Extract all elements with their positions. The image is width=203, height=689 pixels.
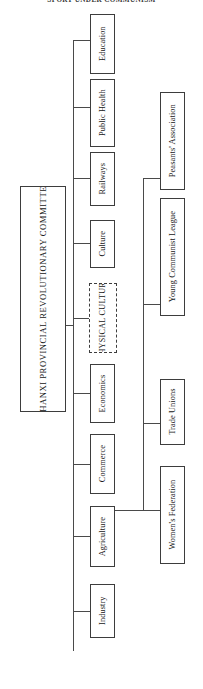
org-chart: SHANXI PROVINCIAL REVOLUTIONARY COMMITTE… bbox=[0, 0, 203, 689]
department-box-agriculture[interactable]: Agriculture bbox=[90, 506, 115, 567]
department-label-agriculture: Agriculture bbox=[98, 517, 107, 556]
department-label-education: Education bbox=[98, 27, 107, 62]
department-box-commerce[interactable]: Commerce bbox=[90, 434, 115, 494]
department-box-culture[interactable]: Culture bbox=[90, 220, 115, 268]
department-label-railways: Railways bbox=[98, 163, 107, 195]
department-box-physical-culture[interactable]: PHYSICAL CULTURE bbox=[89, 283, 117, 353]
mass-organisation-box-peasants-association[interactable]: Peasants' Association bbox=[160, 92, 185, 190]
mass-organisation-trunk-line bbox=[143, 178, 144, 511]
connector-mass-organisation-trunk-base bbox=[115, 510, 144, 511]
root-box-shanxi-provincial-revolutionary-committee[interactable]: SHANXI PROVINCIAL REVOLUTIONARY COMMITTE… bbox=[20, 186, 66, 412]
department-box-railways[interactable]: Railways bbox=[90, 152, 115, 206]
mass-organisation-label-peasants-association: Peasants' Association bbox=[168, 105, 177, 178]
department-label-public-health: Public Health bbox=[98, 90, 107, 137]
department-trunk-line bbox=[73, 40, 74, 651]
connector-stub-peasants-association bbox=[143, 178, 160, 179]
connector-stub-physical-culture bbox=[73, 318, 90, 319]
mass-organisation-label-womens-federation: Women's Federation bbox=[168, 480, 177, 550]
department-box-public-health[interactable]: Public Health bbox=[90, 79, 115, 147]
mass-organisation-label-young-communist-league: Young Communist League bbox=[168, 211, 177, 302]
department-label-commerce: Commerce bbox=[98, 445, 107, 482]
connector-stub-education bbox=[73, 40, 90, 41]
root-box-label: SHANXI PROVINCIAL REVOLUTIONARY COMMITTE… bbox=[37, 186, 48, 412]
connector-stub-public-health bbox=[73, 107, 90, 108]
mass-organisation-box-trade-unions[interactable]: Trade Unions bbox=[160, 379, 185, 445]
mass-organisation-box-womens-federation[interactable]: Women's Federation bbox=[160, 466, 185, 564]
mass-organisation-box-young-communist-league[interactable]: Young Communist League bbox=[160, 198, 185, 316]
department-box-industry[interactable]: Industry bbox=[90, 584, 115, 638]
connector-stub-commerce bbox=[73, 464, 90, 465]
mass-organisation-label-trade-unions: Trade Unions bbox=[168, 389, 177, 435]
department-label-physical-culture: PHYSICAL CULTURE bbox=[98, 283, 108, 353]
connector-stub-trade-unions bbox=[143, 423, 160, 424]
connector-stub-industry bbox=[73, 611, 90, 612]
connector-stub-womens-federation bbox=[143, 510, 160, 511]
department-label-economics: Economics bbox=[98, 375, 107, 413]
department-label-culture: Culture bbox=[98, 231, 107, 257]
connector-stub-railways bbox=[73, 178, 90, 179]
department-box-economics[interactable]: Economics bbox=[90, 364, 115, 423]
connector-stub-economics bbox=[73, 393, 90, 394]
connector-stub-young-communist-league bbox=[143, 304, 160, 305]
connector-stub-culture bbox=[73, 243, 90, 244]
department-label-industry: Industry bbox=[98, 597, 107, 625]
connector-stub-agriculture bbox=[73, 536, 90, 537]
department-box-education[interactable]: Education bbox=[90, 14, 115, 74]
